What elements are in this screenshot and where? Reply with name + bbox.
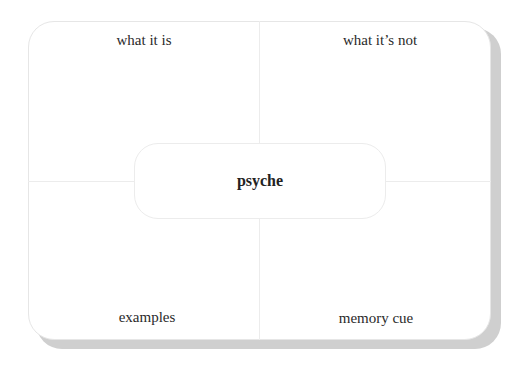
quadrant-label-examples: examples: [47, 309, 247, 326]
quadrant-label-what-it-is: what it is: [44, 32, 244, 49]
quadrant-label-memory-cue: memory cue: [276, 310, 476, 327]
center-term: psyche: [237, 172, 283, 190]
quadrant-label-what-its-not: what it’s not: [280, 32, 480, 49]
center-term-box: psyche: [134, 143, 386, 219]
